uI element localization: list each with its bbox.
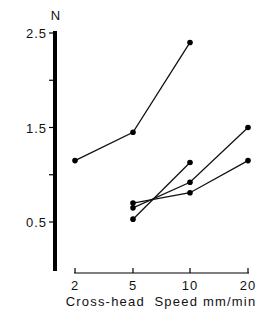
series-line — [75, 42, 190, 160]
y-tick-label: 1.5 — [26, 121, 47, 136]
series-line — [133, 162, 190, 219]
series-line — [133, 128, 248, 208]
data-point — [72, 158, 78, 164]
series-2 — [130, 160, 193, 222]
data-point — [187, 180, 193, 186]
x-tick-label: 10 — [182, 278, 198, 293]
x-tick-label: 5 — [129, 278, 137, 293]
data-point — [245, 125, 251, 131]
series-3 — [130, 125, 251, 211]
y-axis-title: N — [51, 8, 62, 23]
data-point — [245, 158, 251, 164]
data-point — [187, 190, 193, 196]
x-tick-label: 20 — [240, 278, 256, 293]
series-1 — [72, 40, 193, 164]
data-point — [187, 160, 193, 166]
data-point — [187, 40, 193, 46]
data-point — [130, 200, 136, 206]
y-ticks: 2.51.50.5 — [26, 26, 55, 230]
y-tick-label: 2.5 — [26, 26, 47, 41]
x-tick-label: 2 — [71, 278, 79, 293]
data-point — [130, 129, 136, 135]
series-layer — [72, 40, 251, 222]
x-ticks: 251020 — [71, 268, 256, 293]
data-point — [130, 216, 136, 222]
x-axis-title: Cross-head Speed mm/min — [66, 294, 257, 309]
chart: N Cross-head Speed mm/min 2.51.50.5 2510… — [0, 0, 269, 317]
y-tick-label: 0.5 — [26, 215, 47, 230]
